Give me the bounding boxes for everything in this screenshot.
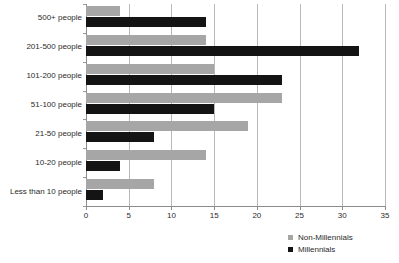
bar-millennials <box>86 161 120 171</box>
x-axis-tick <box>300 207 301 210</box>
legend-label: Millennials <box>298 245 335 255</box>
bar-non-millennials <box>86 35 206 45</box>
y-axis-label: 101-200 people <box>2 71 82 81</box>
y-axis-label: 51-100 people <box>2 100 82 110</box>
bar-group <box>86 91 385 120</box>
x-axis-tick-label: 35 <box>373 211 397 221</box>
bar-group <box>86 119 385 148</box>
bar-non-millennials <box>86 150 206 160</box>
bar-non-millennials <box>86 64 214 74</box>
bar-group <box>86 148 385 177</box>
gridline-x-35 <box>385 4 386 206</box>
x-axis-tick-label: 30 <box>330 211 354 221</box>
legend-swatch-icon <box>288 247 293 252</box>
x-axis-tick <box>171 207 172 210</box>
legend-item[interactable]: Millennials <box>288 244 396 255</box>
x-axis-tick <box>214 207 215 210</box>
y-axis-category-labels: 500+ people201-500 people101-200 people5… <box>0 4 82 206</box>
x-axis-tick-label: 10 <box>159 211 183 221</box>
plot-area <box>86 4 385 206</box>
bar-millennials <box>86 104 214 114</box>
x-axis-tick-label: 5 <box>117 211 141 221</box>
x-axis-tick <box>129 207 130 210</box>
bar-non-millennials <box>86 93 282 103</box>
bar-group <box>86 62 385 91</box>
bar-millennials <box>86 46 359 56</box>
x-axis-tick-label: 15 <box>202 211 226 221</box>
legend-label: Non-Millennials <box>298 233 353 243</box>
x-axis-tick-label: 0 <box>74 211 98 221</box>
x-axis-tick <box>86 207 87 210</box>
x-axis-tick <box>385 207 386 210</box>
bar-chart: 500+ people201-500 people101-200 people5… <box>0 0 399 263</box>
y-axis-label: 201-500 people <box>2 42 82 52</box>
bar-non-millennials <box>86 6 120 16</box>
y-axis-label: 21-50 people <box>2 129 82 139</box>
bar-millennials <box>86 75 282 85</box>
bar-group <box>86 33 385 62</box>
legend-swatch-icon <box>288 235 293 240</box>
bar-non-millennials <box>86 121 248 131</box>
chart-legend: Non-MillennialsMillennials <box>288 232 396 256</box>
bar-millennials <box>86 190 103 200</box>
bar-group <box>86 177 385 206</box>
x-axis-tick-label: 25 <box>288 211 312 221</box>
legend-item[interactable]: Non-Millennials <box>288 232 396 243</box>
x-axis-tick <box>257 207 258 210</box>
x-axis-tick-label: 20 <box>245 211 269 221</box>
bar-millennials <box>86 17 206 27</box>
bar-non-millennials <box>86 179 154 189</box>
x-axis-line <box>86 206 386 207</box>
x-axis-tick <box>342 207 343 210</box>
bar-group <box>86 4 385 33</box>
bar-millennials <box>86 132 154 142</box>
y-axis-label: 10-20 people <box>2 158 82 168</box>
y-axis-label: 500+ people <box>2 13 82 23</box>
y-axis-label: Less than 10 people <box>2 187 82 197</box>
